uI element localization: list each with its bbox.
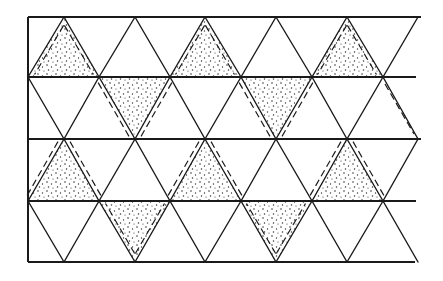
triangle-edge — [276, 139, 312, 201]
triangle-edge — [276, 17, 312, 77]
triangle-edge — [383, 201, 418, 262]
triangle-edge — [312, 201, 347, 262]
stippled-triangle — [29, 17, 100, 77]
triangle-edge — [170, 77, 205, 139]
triangle-edge — [205, 201, 241, 262]
triangle-edge — [383, 17, 418, 77]
triangle-edge — [64, 77, 99, 139]
triangle-edge — [135, 17, 170, 77]
triangle-edge — [135, 139, 170, 201]
stippled-triangle — [241, 77, 312, 139]
triangle-edge — [383, 139, 418, 201]
dashed-edge-right-border — [385, 84, 414, 134]
stippled-triangle — [170, 139, 241, 201]
triangle-edge — [28, 77, 64, 139]
triangle-edge — [312, 77, 347, 139]
triangle-edge — [99, 139, 135, 201]
triangle-edge — [347, 77, 383, 139]
triangle-edge — [28, 201, 64, 262]
triangle-edge — [383, 77, 418, 139]
triangle-edge — [170, 201, 205, 262]
stippled-triangle — [241, 201, 312, 262]
triangle-edge — [99, 17, 135, 77]
triangle-edge — [205, 77, 241, 139]
stippled-triangle — [312, 17, 383, 77]
stippled-triangle — [312, 139, 383, 201]
triangle-edge — [347, 201, 383, 262]
stippled-triangle — [29, 139, 100, 201]
triangle-tessellation-diagram — [0, 0, 443, 281]
triangle-edge — [241, 17, 276, 77]
stippled-triangle — [170, 17, 241, 77]
triangle-edge — [64, 201, 99, 262]
triangle-edge — [241, 139, 276, 201]
stippled-triangle — [100, 77, 171, 139]
stippled-triangle — [100, 201, 171, 262]
